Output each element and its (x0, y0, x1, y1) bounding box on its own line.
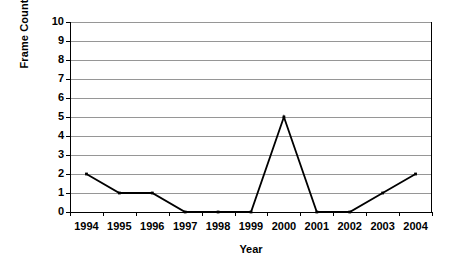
data-point-marker (283, 116, 286, 119)
data-point-marker (381, 192, 384, 195)
y-tick-label: 9 (36, 35, 64, 46)
data-point-marker (151, 192, 154, 195)
data-series-line (86, 117, 415, 212)
y-tick-label: 5 (36, 111, 64, 122)
y-tick-label: 7 (36, 73, 64, 84)
data-point-marker (348, 211, 351, 214)
data-point-marker (414, 173, 417, 176)
x-axis-title: Year (70, 243, 432, 255)
y-tick-label: 6 (36, 92, 64, 103)
y-tick-label: 1 (36, 187, 64, 198)
y-tick-label: 3 (36, 149, 64, 160)
y-tick-label: 2 (36, 168, 64, 179)
data-point-marker (118, 192, 121, 195)
data-point-marker (315, 211, 318, 214)
data-point-marker (250, 211, 253, 214)
y-axis-tick-labels: 012345678910 (36, 22, 64, 212)
y-tick-label: 10 (36, 16, 64, 27)
y-tick-label: 4 (36, 130, 64, 141)
x-tick-label: 2004 (395, 219, 437, 233)
plot-area (70, 22, 432, 212)
y-axis-title: Frame Count (13, 0, 35, 140)
data-point-marker (217, 211, 220, 214)
y-tick-label: 0 (36, 206, 64, 217)
data-point-marker (184, 211, 187, 214)
chart-container: Frame Count 012345678910 199419951996199… (0, 0, 460, 272)
x-axis-tick-labels: 1994199519961997199819992000200120022003… (70, 219, 432, 235)
y-tick-label: 8 (36, 54, 64, 65)
data-point-marker (85, 173, 88, 176)
line-chart-plot (64, 22, 438, 218)
